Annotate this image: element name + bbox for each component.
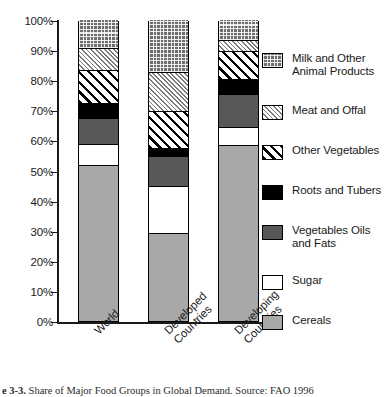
bar-segment-sugar	[149, 187, 188, 234]
legend-item-roots: Roots and Tubers	[262, 184, 381, 200]
bar-segment-roots	[219, 80, 258, 95]
bar-segment-cereals	[79, 166, 118, 321]
bar-segment-vegetable_oils	[219, 95, 258, 128]
bar-segment-meat	[149, 73, 188, 112]
caption-text: Share of Major Food Groups in Global Dem…	[26, 385, 314, 396]
legend-item-meat: Meat and Offal	[262, 104, 366, 120]
diagonal-stripe-swatch	[262, 145, 283, 160]
fine-hatch-swatch	[262, 105, 283, 120]
bar-segment-milk	[149, 20, 188, 73]
bar-segment-milk	[79, 20, 118, 49]
legend-item-milk: Milk and Other Animal Products	[262, 52, 374, 78]
bar-segment-meat	[219, 41, 258, 52]
legend-item-label: Meat and Offal	[292, 104, 366, 117]
legend-item-label: Vegetables Oils and Fats	[292, 224, 370, 250]
legend-item-label: Sugar	[292, 274, 322, 287]
bar-segment-other_vegetables	[149, 112, 188, 150]
legend-item-label: Cereals	[292, 314, 331, 327]
chart-plot-area: 100%90%80%70%60%50%40%30%20%10%0% WorldD…	[0, 0, 270, 340]
bar-segment-vegetable_oils	[79, 119, 118, 145]
checkered-dark-swatch	[262, 53, 283, 68]
stacked-bar	[218, 21, 259, 322]
bar-segment-vegetable_oils	[149, 157, 188, 187]
caption-figure-number: e 3-3.	[2, 385, 26, 396]
bar-group	[0, 21, 213, 322]
bar-segment-meat	[79, 49, 118, 72]
white-swatch	[262, 275, 283, 290]
solid-black-swatch	[262, 185, 283, 200]
legend-item-vegetable_oils: Vegetables Oils and Fats	[262, 224, 370, 250]
legend-item-label: Roots and Tubers	[292, 184, 381, 197]
bar-segment-sugar	[79, 145, 118, 166]
legend-item-label: Other Vegetables	[292, 144, 379, 157]
legend-item-other_vegetables: Other Vegetables	[262, 144, 379, 160]
bar-segment-cereals	[219, 146, 258, 321]
figure-caption: e 3-3. Share of Major Food Groups in Glo…	[2, 385, 388, 397]
bar-segment-other_vegetables	[219, 52, 258, 81]
medium-gray-swatch	[262, 315, 283, 330]
dark-gray-swatch	[262, 225, 283, 240]
stacked-bar	[148, 21, 189, 322]
legend-item-label: Milk and Other Animal Products	[292, 52, 374, 78]
bar-segment-roots	[79, 104, 118, 119]
bar-segment-other_vegetables	[79, 71, 118, 104]
bar-segment-sugar	[219, 128, 258, 146]
stacked-bar	[78, 21, 119, 322]
legend-item-sugar: Sugar	[262, 274, 322, 290]
legend-item-cereals: Cereals	[262, 314, 331, 330]
bar-segment-roots	[149, 149, 188, 157]
bar-segment-milk	[219, 20, 258, 41]
